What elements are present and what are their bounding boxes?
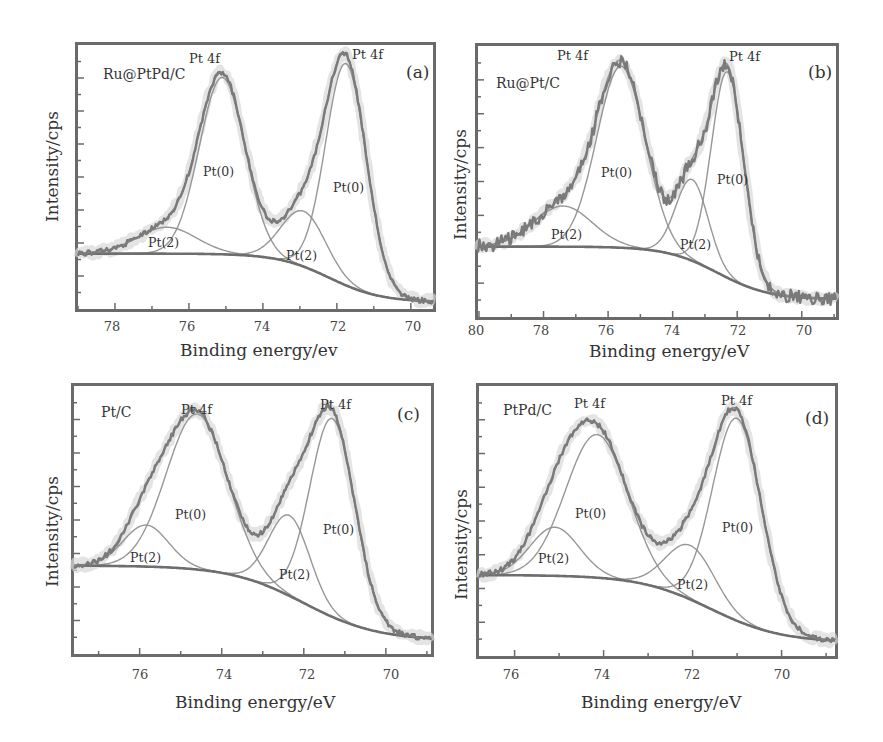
- pt4f-label-right: Pt 4f: [721, 394, 752, 407]
- x-tick-label: 76: [179, 319, 196, 334]
- pt4f-label-left: Pt 4f: [557, 49, 588, 62]
- y-axis-label: Intensity/cps: [451, 489, 471, 600]
- pt0-label-right: Pt(0): [717, 174, 748, 187]
- pt2-label-left: Pt(2): [551, 229, 582, 242]
- pt2-component-curve: [478, 179, 836, 298]
- data-halo: [78, 51, 433, 304]
- pt4f-label-right: Pt 4f: [320, 398, 351, 411]
- x-tick-label: 76: [503, 667, 520, 682]
- pt4f-label-left: Pt 4f: [181, 403, 212, 416]
- pt4f-label-right: Pt 4f: [352, 48, 383, 61]
- x-tick-label: 72: [684, 667, 701, 682]
- sample-label: PtPd/C: [503, 403, 552, 417]
- pt2-label-left: Pt(2): [130, 552, 161, 565]
- pt2-label-right: Pt(2): [286, 250, 317, 263]
- pt2-label-right: Pt(2): [677, 579, 708, 592]
- x-tick-label: 74: [216, 667, 233, 682]
- pt2-label-left: Pt(2): [148, 237, 179, 250]
- pt2-label-right: Pt(2): [279, 569, 310, 582]
- panel-letter: (d): [805, 410, 829, 427]
- x-tick-label: 74: [254, 319, 271, 334]
- x-tick-label: 70: [774, 667, 791, 682]
- panel-letter: (c): [397, 406, 420, 423]
- panel-letter: (b): [808, 64, 832, 81]
- pt2-label-left: Pt(2): [538, 553, 569, 566]
- plot-frame: [75, 42, 436, 312]
- y-axis-label: Intensity/cps: [42, 111, 62, 222]
- pt4f-label-left: Pt 4f: [189, 52, 220, 65]
- x-tick-label: 72: [330, 319, 347, 334]
- x-tick-label: 70: [383, 667, 400, 682]
- y-axis-label: Intensity/cps: [42, 476, 62, 587]
- sample-label: Pt/C: [101, 405, 131, 419]
- x-tick-label: 72: [730, 323, 747, 338]
- x-axis-label: Binding energy/ev: [180, 340, 338, 360]
- pt0-label-right: Pt(0): [333, 182, 364, 195]
- pt0-label-right: Pt(0): [323, 524, 354, 537]
- x-tick-label: 76: [132, 667, 149, 682]
- x-tick-label: 74: [594, 667, 611, 682]
- x-tick-label: 72: [299, 667, 316, 682]
- x-tick-label: 74: [664, 323, 681, 338]
- pt0-label-right: Pt(0): [722, 522, 753, 535]
- pt2-label-right: Pt(2): [680, 239, 711, 252]
- y-axis-label: Intensity/cps: [450, 129, 470, 240]
- x-axis-label: Binding energy/eV: [589, 341, 749, 361]
- raw-data-curve: [478, 56, 836, 305]
- sample-label: Ru@PtPd/C: [103, 67, 185, 81]
- pt0-label-left: Pt(0): [203, 166, 234, 179]
- pt0-label-left: Pt(0): [575, 508, 606, 521]
- plot-area: [74, 386, 431, 654]
- plot-frame: [476, 383, 838, 659]
- x-tick-label: 70: [405, 319, 422, 334]
- sample-label: Ru@Pt/C: [496, 76, 560, 90]
- x-tick-label: 78: [104, 319, 121, 334]
- plot-frame: [71, 383, 434, 657]
- pt0-label-left: Pt(0): [601, 167, 632, 180]
- x-tick-label: 80: [468, 323, 485, 338]
- x-tick-label: 70: [796, 323, 813, 338]
- x-axis-label: Binding energy/eV: [175, 692, 335, 712]
- plot-area: [78, 45, 433, 309]
- x-tick-label: 78: [533, 323, 550, 338]
- pt4f-label-right: Pt 4f: [729, 50, 760, 63]
- pt4f-label-left: Pt 4f: [574, 397, 605, 410]
- plot-area: [479, 386, 835, 656]
- pt0-label-left: Pt(0): [175, 509, 206, 522]
- panel-letter: (a): [406, 64, 429, 81]
- x-tick-label: 76: [598, 323, 615, 338]
- x-axis-label: Binding energy/eV: [581, 692, 741, 712]
